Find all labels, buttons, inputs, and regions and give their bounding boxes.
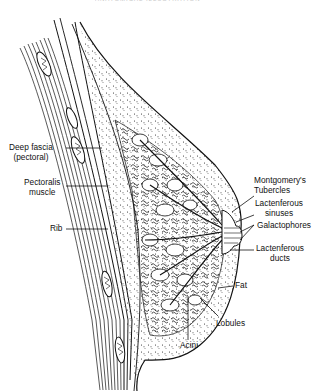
label-deep-fascia: Deep fascia (pectoral) (9, 143, 53, 162)
breast-anatomy-diagram: ANATOMICAL ILLUSTRATION (0, 0, 327, 391)
label-pectoralis-muscle: Pectoralis muscle (24, 178, 60, 197)
label-montgomerys-tubercles: Montgomery's Tubercles (254, 176, 306, 195)
label-acini: Acini (180, 341, 198, 351)
label-lactiferous-sinuses: Lactenferous sinuses (255, 199, 303, 218)
label-lactiferous-ducts: Lactenferous ducts (256, 244, 304, 263)
label-rib: Rib (50, 224, 62, 234)
label-lobules: Lobules (216, 319, 245, 329)
label-fat: Fat (235, 281, 247, 291)
label-galactophores: Galactophores (257, 221, 311, 231)
